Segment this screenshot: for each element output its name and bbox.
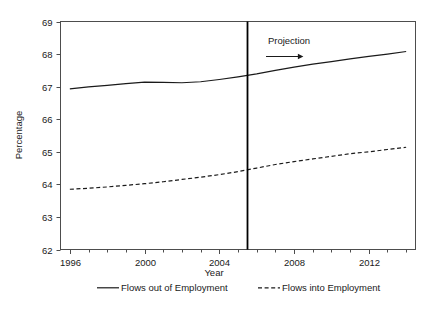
y-tick-label: 65 xyxy=(42,147,53,158)
x-tick-label: 2008 xyxy=(284,257,305,268)
legend-label: Flows out of Employment xyxy=(121,282,228,293)
y-tick-label: 69 xyxy=(42,17,53,28)
x-tick-label: 1996 xyxy=(60,257,81,268)
y-tick-label: 68 xyxy=(42,49,53,60)
y-tick-label: 66 xyxy=(42,114,53,125)
x-tick-label: 2000 xyxy=(135,257,156,268)
x-axis-label: Year xyxy=(204,267,223,278)
y-tick-label: 64 xyxy=(42,179,53,190)
x-tick-label: 2004 xyxy=(209,257,230,268)
y-tick-label: 63 xyxy=(42,212,53,223)
x-tick-label: 2012 xyxy=(359,257,380,268)
y-tick-label: 67 xyxy=(42,82,53,93)
line-chart: 6263646566676869 19962000200420082012 Pr… xyxy=(0,0,434,309)
chart-figure: 6263646566676869 19962000200420082012 Pr… xyxy=(0,0,434,309)
legend-label: Flows into Employment xyxy=(282,282,381,293)
y-axis-label: Percentage xyxy=(13,111,24,160)
projection-label: Projection xyxy=(268,35,310,46)
y-tick-label: 62 xyxy=(42,245,53,256)
